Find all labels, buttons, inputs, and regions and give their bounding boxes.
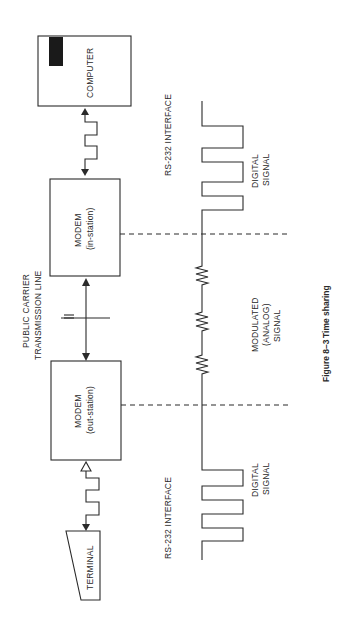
modem-in-sublabel: (in-station) <box>85 207 95 250</box>
figure-caption-title: Time sharing <box>321 285 331 338</box>
modem-in-label: MODEM <box>73 213 83 247</box>
computer-label: COMPUTER <box>85 48 95 98</box>
modem-out-station-node: MODEM (out-station) <box>51 361 121 460</box>
modem-out-sublabel: (out-station) <box>85 386 95 434</box>
arrow-up-icon <box>82 278 90 286</box>
modulated-signal-label-1: MODULATED <box>250 297 260 352</box>
time-sharing-diagram: COMPUTER MODEM (in-station) PUBLIC CARRI… <box>0 0 346 626</box>
transmission-line-label-1: PUBLIC CARRIER <box>21 274 31 348</box>
signal-waveform <box>196 101 243 560</box>
modem-out-label: MODEM <box>73 394 83 428</box>
rs232-interface-label-bottom: RS-232 INTERFACE <box>163 477 173 559</box>
modulated-signal <box>196 262 208 456</box>
arrow-down-icon <box>82 353 90 361</box>
computer-panel-icon <box>49 37 63 66</box>
digital-signal-top-label-1: DIGITAL <box>250 154 260 188</box>
modulated-signal-label-3: SIGNAL <box>272 310 282 342</box>
arrow-down-icon <box>81 169 89 176</box>
rs232-interface-label-top: RS-232 INTERFACE <box>163 94 173 176</box>
computer-node: COMPUTER <box>38 36 131 106</box>
arrow-up-icon <box>81 108 89 115</box>
arrow-down-icon <box>82 524 90 531</box>
digital-signal-bottom-label-2: SIGNAL <box>261 463 271 495</box>
digital-signal-bottom-label-1: DIGITAL <box>250 463 260 497</box>
computer-modem-link <box>81 108 97 176</box>
digital-signal-bottom <box>202 456 243 560</box>
figure-caption-number: Figure 8–3 <box>321 339 331 382</box>
digital-signal-top <box>202 101 243 262</box>
hollow-arrow-up-icon <box>81 462 91 471</box>
modem-in-station-node: MODEM (in-station) <box>50 179 120 276</box>
transmission-line: PUBLIC CARRIER TRANSMISSION LINE <box>21 271 110 361</box>
transmission-line-label-2: TRANSMISSION LINE <box>33 271 43 360</box>
modulated-signal-label-2: (ANALOG) <box>261 303 271 346</box>
terminal-node: TERMINAL <box>66 531 100 600</box>
modem-terminal-link <box>81 462 99 531</box>
terminal-label: TERMINAL <box>85 545 95 590</box>
digital-signal-top-label-2: SIGNAL <box>261 154 271 186</box>
